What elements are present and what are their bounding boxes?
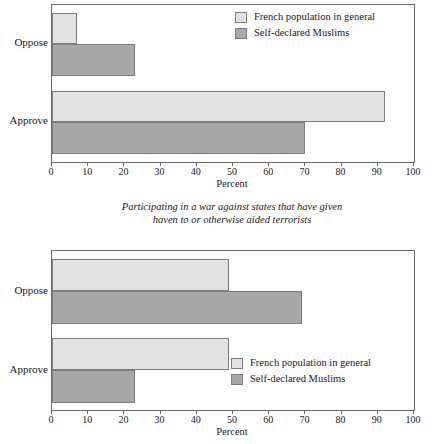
bar-oppose-french-2 bbox=[52, 259, 229, 291]
x-tick-label-50: 50 bbox=[227, 166, 237, 178]
x-tick-label-20-2: 20 bbox=[118, 414, 128, 426]
x-tick-label-30: 30 bbox=[155, 166, 165, 178]
bar-oppose-muslims-1 bbox=[52, 44, 135, 76]
x-tick-label-0-2: 0 bbox=[49, 414, 54, 426]
legend-item-french-2: French population in general bbox=[231, 355, 371, 371]
legend-item-muslims: Self-declared Muslims bbox=[235, 25, 375, 41]
legend-item-muslims-2: Self-declared Muslims bbox=[231, 371, 371, 387]
x-tick-label-70: 70 bbox=[299, 166, 309, 178]
category-label-oppose-1: Oppose bbox=[0, 36, 48, 48]
category-label-approve-2: Approve bbox=[0, 363, 48, 375]
bar-oppose-muslims-2 bbox=[52, 291, 302, 324]
x-tick-label-100: 100 bbox=[406, 166, 421, 178]
x-tick-label-50-2: 50 bbox=[227, 414, 237, 426]
chart-panel-top: Oppose Approve French population in gene… bbox=[0, 0, 435, 196]
bar-approve-muslims-2 bbox=[52, 370, 135, 403]
x-tick-label-10-2: 10 bbox=[82, 414, 92, 426]
x-tick-label-0: 0 bbox=[49, 166, 54, 178]
legend-swatch-muslims-icon bbox=[235, 28, 247, 39]
figure-caption: Participating in a war against states th… bbox=[51, 200, 413, 226]
x-tick-label-40-2: 40 bbox=[191, 414, 201, 426]
bar-approve-muslims-1 bbox=[52, 122, 305, 154]
legend-bottom: French population in general Self-declar… bbox=[229, 354, 373, 388]
x-tick-label-60: 60 bbox=[263, 166, 273, 178]
x-tick-label-80: 80 bbox=[336, 166, 346, 178]
x-tick-label-10: 10 bbox=[82, 166, 92, 178]
legend-item-french: French population in general bbox=[235, 9, 375, 25]
legend-swatch-french-icon bbox=[235, 12, 247, 23]
bar-approve-french-2 bbox=[52, 338, 229, 370]
x-tick-label-90-2: 90 bbox=[372, 414, 382, 426]
x-axis-title-top: Percent bbox=[51, 178, 413, 189]
x-tick-label-60-2: 60 bbox=[263, 414, 273, 426]
category-label-oppose-2: Oppose bbox=[0, 284, 48, 296]
legend-swatch-muslims-icon-2 bbox=[231, 374, 243, 385]
category-label-approve-1: Approve bbox=[0, 114, 48, 126]
x-tick-label-100-2: 100 bbox=[406, 414, 421, 426]
legend-label-french-2: French population in general bbox=[250, 357, 371, 369]
legend-label-muslims-2: Self-declared Muslims bbox=[250, 373, 345, 385]
x-tick-label-20: 20 bbox=[118, 166, 128, 178]
x-tick-label-70-2: 70 bbox=[299, 414, 309, 426]
x-tick-label-90: 90 bbox=[372, 166, 382, 178]
x-axis-title-bottom: Percent bbox=[51, 426, 413, 437]
legend-top: French population in general Self-declar… bbox=[233, 8, 377, 42]
bar-approve-french-1 bbox=[52, 91, 385, 122]
figure-caption-line-1: Participating in a war against states th… bbox=[51, 200, 413, 213]
legend-label-french: French population in general bbox=[254, 11, 375, 23]
bar-oppose-french-1 bbox=[52, 13, 77, 44]
x-tick-label-80-2: 80 bbox=[336, 414, 346, 426]
x-tick-label-30-2: 30 bbox=[155, 414, 165, 426]
legend-swatch-french-icon-2 bbox=[231, 358, 243, 369]
legend-label-muslims: Self-declared Muslims bbox=[254, 27, 349, 39]
chart-panel-bottom: Oppose Approve French population in gene… bbox=[0, 246, 435, 444]
figure-caption-line-2: haven to or otherwise aided terrorists bbox=[51, 213, 413, 226]
x-tick-label-40: 40 bbox=[191, 166, 201, 178]
